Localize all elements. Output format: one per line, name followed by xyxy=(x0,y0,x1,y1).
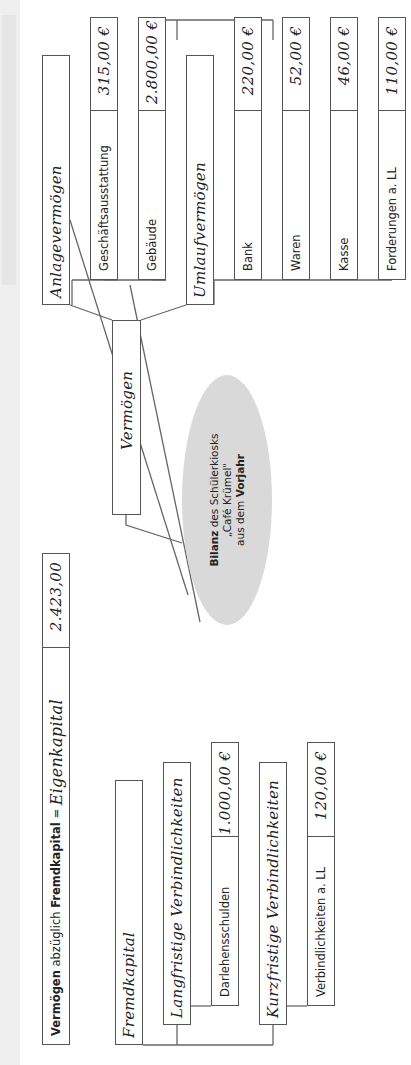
balance-sheet-diagram: Vermögen abzüglich Fremdkapital = Eigenk… xyxy=(0,0,411,1065)
liability-connectors xyxy=(0,0,411,1065)
